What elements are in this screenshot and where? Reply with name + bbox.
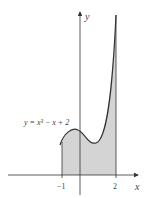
x-axis-label: x	[134, 181, 140, 192]
shaded-area	[62, 15, 116, 175]
tick-label-neg1: −1	[57, 182, 66, 191]
tick-label-2: 2	[113, 182, 117, 191]
equation-label: y = x³ − x + 2	[23, 118, 69, 127]
y-axis-label: y	[84, 11, 90, 22]
area-under-curve-diagram: y x −1 2 y = x³ − x + 2	[0, 0, 157, 198]
